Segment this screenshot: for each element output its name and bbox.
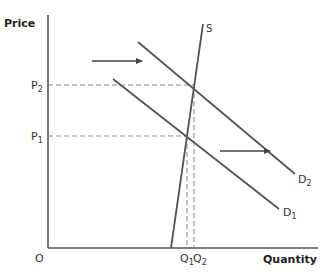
shift-arrows [92, 61, 270, 151]
x-axis-label: Quantity [263, 253, 317, 266]
guide-lines [48, 85, 194, 248]
d2-label: D2 [298, 173, 312, 188]
supply-demand-diagram: Price Quantity O S D2 D1 P2 P1 Q1 Q2 [0, 0, 334, 278]
demand-curve-d1 [113, 79, 279, 209]
q2-label: Q2 [193, 252, 207, 267]
origin-label: O [35, 252, 44, 265]
d1-label: D1 [283, 206, 297, 221]
q1-label: Q1 [180, 252, 194, 267]
y-axis-label: Price [4, 17, 35, 30]
demand-curve-d2 [138, 42, 295, 174]
axes [48, 15, 318, 248]
p2-label: P2 [31, 79, 43, 94]
supply-label: S [206, 23, 212, 34]
p1-label: P1 [31, 130, 43, 145]
